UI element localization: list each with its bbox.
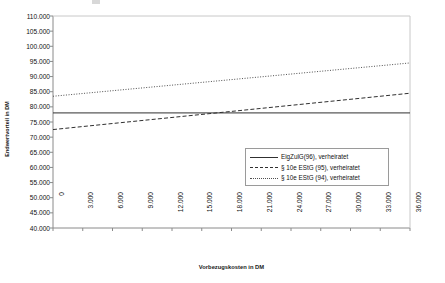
legend-line-swatch-icon [250,174,278,183]
line-chart: Endwertvorteil in DM 110.000105.000100.0… [0,0,445,283]
legend-item-label: EigZulG(96), verheiratet [281,152,348,162]
x-tick-label: 36.000 [414,192,424,232]
x-tick-label: 9.000 [146,192,156,232]
legend-item-label: § 10e EStG (95), verheiratet [281,163,360,173]
x-tick-label: 24.000 [295,192,305,232]
x-axis-title: Vorbezugskosten in DM [53,264,410,270]
x-tick-label: 15.000 [205,192,215,232]
x-tick-label: 27.000 [324,192,334,232]
x-tick-label: 0 [57,192,67,232]
x-tick-label: 6.000 [116,192,126,232]
x-tick-label: 3.000 [86,192,96,232]
x-tick-label: 33.000 [384,192,394,232]
x-tick-label: 18.000 [235,192,245,232]
x-tick-label: 12.000 [176,192,186,232]
x-axis-tick-labels: 03.0006.0009.00012.00015.00018.00021.000… [0,0,445,283]
legend-line-swatch-icon [250,153,278,162]
x-tick-label: 30.000 [354,192,364,232]
legend-item-label: § 10e EStG (94), verheiratet [281,173,360,183]
chart-legend: EigZulG(96), verheiratet§ 10e EStG (95),… [245,148,389,186]
legend-item[interactable]: § 10e EStG (94), verheiratet [250,173,384,184]
legend-item[interactable]: § 10e EStG (95), verheiratet [250,163,384,174]
x-tick-label: 21.000 [265,192,275,232]
legend-line-swatch-icon [250,163,278,172]
legend-item[interactable]: EigZulG(96), verheiratet [250,152,384,163]
